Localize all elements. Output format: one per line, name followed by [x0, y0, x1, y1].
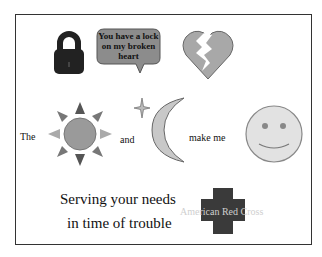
smiley-face-icon [244, 104, 304, 164]
speech-line-1: You have a lock [96, 31, 161, 41]
padlock-icon [52, 31, 86, 75]
red-cross-label: American Red Cross [180, 206, 263, 217]
speech-line-2: on my broken [96, 41, 161, 51]
crescent-moon-icon [150, 97, 186, 163]
star-icon [134, 98, 150, 118]
words-make-me: make me [189, 132, 225, 143]
broken-heart-icon [182, 27, 234, 81]
speech-bubble-text: You have a lock on my broken heart [96, 28, 161, 61]
speech-bubble: You have a lock on my broken heart [96, 28, 161, 74]
speech-line-3: heart [96, 51, 161, 61]
slogan-line-2: in time of trouble [67, 215, 172, 232]
word-the: The [20, 131, 36, 142]
sun-icon [48, 102, 112, 166]
word-and: and [120, 134, 134, 145]
slogan-line-1: Serving your needs [60, 191, 176, 208]
